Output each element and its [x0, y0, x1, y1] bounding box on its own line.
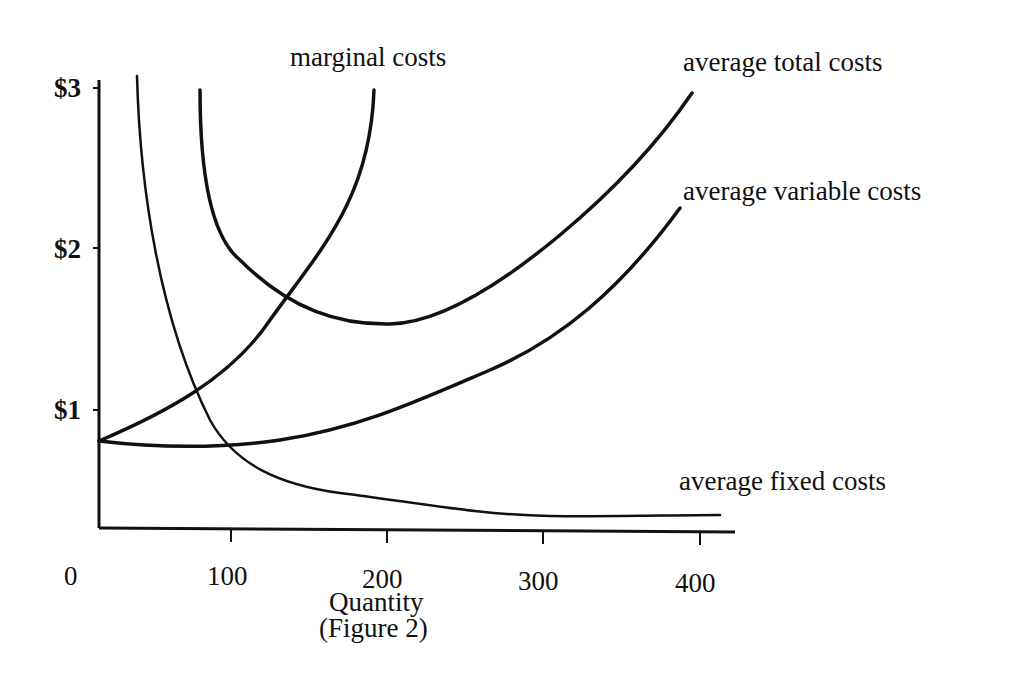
marginal-costs-label: marginal costs: [290, 42, 446, 72]
x-tick-label-100: 100: [207, 561, 248, 591]
average-fixed-costs-label: average fixed costs: [679, 466, 886, 496]
x-axis: [99, 528, 735, 532]
average-total-costs-label: average total costs: [683, 47, 882, 77]
figure-caption: (Figure 2): [319, 613, 428, 643]
x-tick-label-300: 300: [518, 566, 559, 596]
average-total-costs-curve: [200, 90, 692, 324]
average-variable-costs-label: average variable costs: [683, 176, 921, 206]
y-tick-label-3: $3: [54, 73, 81, 103]
y-tick-label-1: $1: [54, 395, 81, 425]
x-tick-label-0: 0: [64, 561, 78, 591]
x-tick-label-400: 400: [675, 568, 716, 598]
average-variable-costs-curve: [99, 208, 680, 447]
average-fixed-costs-curve: [137, 76, 720, 516]
cost-curves-chart: $3 $2 $1 0 100 200 300 400 Quantity (Fig…: [0, 0, 1019, 689]
y-tick-label-2: $2: [54, 234, 81, 264]
